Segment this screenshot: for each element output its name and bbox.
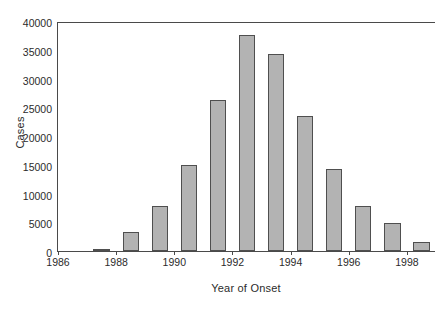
y-tick-label: 25000 [23,104,58,115]
bar [239,35,255,251]
bar [123,232,139,251]
x-tick-label: 1998 [395,257,418,268]
x-tick-mark [174,251,175,255]
bar [181,165,197,251]
x-tick-label: 1994 [279,257,302,268]
x-tick-label: 1992 [221,257,244,268]
x-tick-mark [349,251,350,255]
bar [326,169,342,251]
y-tick-label: 5000 [29,219,58,230]
bar [93,249,109,251]
x-tick-mark [232,251,233,255]
y-tick-label: 40000 [23,18,58,29]
y-tick-label: 30000 [23,75,58,86]
bar [297,116,313,251]
y-tick-label: 15000 [23,162,58,173]
x-tick-mark [116,251,117,255]
bar [355,206,371,251]
y-tick-label: 10000 [23,190,58,201]
x-tick-mark [291,251,292,255]
y-tick-label: 20000 [23,133,58,144]
bar [384,223,400,251]
y-tick-label: 35000 [23,47,58,58]
x-axis-title: Year of Onset [57,282,435,294]
bar [152,206,168,251]
bar [413,242,429,251]
x-tick-label: 1988 [104,257,127,268]
x-tick-label: 1986 [46,257,69,268]
bar [268,54,284,251]
plot-area: 0500010000150002000025000300003500040000… [57,22,435,252]
x-tick-mark [407,251,408,255]
x-tick-label: 1990 [163,257,186,268]
bar [210,100,226,251]
chart-figure: Cases 0500010000150002000025000300003500… [0,0,447,309]
x-tick-mark [58,251,59,255]
x-tick-label: 1996 [337,257,360,268]
